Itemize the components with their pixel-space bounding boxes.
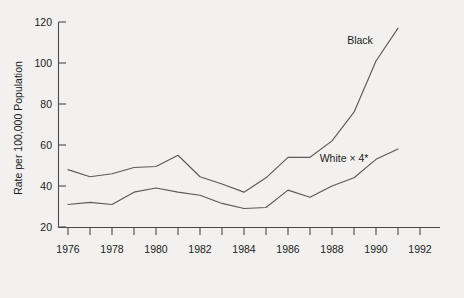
series-label-black: Black bbox=[347, 34, 373, 46]
y-axis-title: Rate per 100,000 Population bbox=[12, 61, 24, 195]
y-axis-tick-labels: 120 100 80 60 40 20 bbox=[34, 16, 52, 233]
data-series-group bbox=[68, 28, 398, 208]
y-axis bbox=[59, 22, 67, 228]
x-tick-label-1988: 1988 bbox=[320, 243, 344, 255]
series-line-black bbox=[68, 28, 398, 192]
line-chart: Rate per 100,000 Population 120 100 80 6… bbox=[0, 0, 464, 298]
x-tick-label-1990: 1990 bbox=[364, 243, 388, 255]
series-label-white: White × 4* bbox=[320, 152, 369, 164]
x-tick-label-1992: 1992 bbox=[408, 243, 432, 255]
y-tick-label-100: 100 bbox=[34, 57, 52, 69]
x-axis-tick-labels: 1976 1978 1980 1982 1984 1986 1988 1990 … bbox=[56, 243, 432, 255]
x-tick-label-1982: 1982 bbox=[188, 243, 212, 255]
chart-container: Rate per 100,000 Population 120 100 80 6… bbox=[0, 0, 464, 298]
y-tick-label-60: 60 bbox=[40, 139, 52, 151]
x-tick-label-1976: 1976 bbox=[56, 243, 80, 255]
x-tick-label-1984: 1984 bbox=[232, 243, 256, 255]
y-tick-label-20: 20 bbox=[40, 221, 52, 233]
y-tick-label-40: 40 bbox=[40, 180, 52, 192]
x-tick-label-1980: 1980 bbox=[144, 243, 168, 255]
y-axis-title-group: Rate per 100,000 Population bbox=[12, 61, 24, 195]
y-tick-label-80: 80 bbox=[40, 98, 52, 110]
x-axis bbox=[59, 228, 441, 236]
x-tick-label-1978: 1978 bbox=[100, 243, 124, 255]
x-tick-label-1986: 1986 bbox=[276, 243, 300, 255]
y-tick-label-120: 120 bbox=[34, 16, 52, 28]
